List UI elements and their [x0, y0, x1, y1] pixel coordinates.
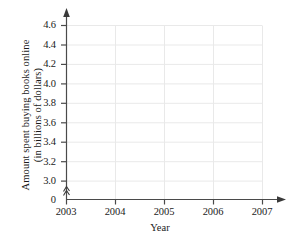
x-tick-label-2006: 2006: [193, 206, 233, 217]
x-tick-label-group: 2003 2004 2005 2006 2007: [0, 0, 292, 248]
x-tick-label-2005: 2005: [144, 206, 184, 217]
x-tick-label-2003: 2003: [46, 206, 86, 217]
x-tick-label-2004: 2004: [95, 206, 135, 217]
x-tick-label-2007: 2007: [242, 206, 282, 217]
chart-container: Amount spent buying books online (in bil…: [0, 0, 292, 248]
x-axis-title: Year: [100, 222, 220, 233]
